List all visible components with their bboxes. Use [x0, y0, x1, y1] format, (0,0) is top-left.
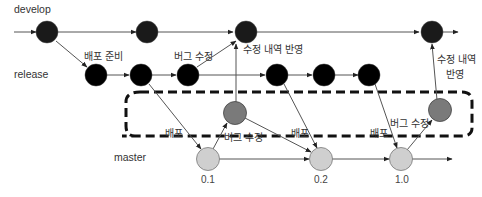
- label-deploy: 배포: [370, 128, 388, 139]
- label-merge-changes: 수정 내역 반영: [243, 44, 303, 55]
- release-commit-node: [85, 64, 107, 86]
- label-deploy: 배포: [291, 128, 309, 139]
- release-commit-node: [358, 64, 380, 86]
- label-hotfix: 버그 수정: [390, 118, 429, 129]
- label-deploy: 배포: [165, 128, 183, 139]
- hotfix-commit-node: [224, 102, 247, 125]
- develop-commit-node: [235, 21, 257, 43]
- develop-commit-node: [136, 21, 158, 43]
- branch-label-master: master: [114, 151, 147, 163]
- master-release-node: [310, 148, 333, 171]
- label-hotfix: 버그 수정: [224, 132, 263, 143]
- develop-commit-node: [36, 21, 58, 43]
- label-merge-changes-2-line1: 수정 내역: [437, 54, 476, 65]
- hotfix-commit-node: [429, 99, 452, 122]
- branch-label-release: release: [14, 68, 49, 80]
- git-flow-diagram: develop release master 배포 준비 버그 수정 수정 내역…: [0, 0, 482, 197]
- master-release-node: [390, 148, 413, 171]
- release-commit-node: [313, 64, 335, 86]
- label-merge-changes-2-line2: 반영: [446, 69, 464, 80]
- version-label: 0.1: [201, 174, 215, 185]
- branch-label-develop: develop: [14, 3, 51, 15]
- label-bugfix: 버그 수정: [174, 51, 213, 62]
- version-label: 0.2: [314, 174, 328, 185]
- master-release-node: [197, 148, 220, 171]
- label-prepare-release: 배포 준비: [84, 51, 123, 62]
- develop-commit-node: [421, 21, 443, 43]
- version-label: 1.0: [395, 174, 409, 185]
- release-commit-node: [177, 64, 199, 86]
- release-commit-node: [130, 64, 152, 86]
- release-commit-node: [266, 64, 288, 86]
